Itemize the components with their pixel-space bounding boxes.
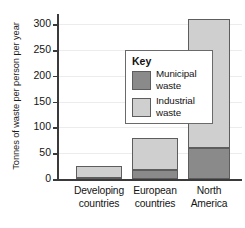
- legend-label: Municipalwaste: [156, 68, 196, 92]
- bar-segment-municipal: [188, 148, 230, 179]
- legend-title: Key: [132, 55, 151, 67]
- x-axis-label-line2: America: [169, 197, 245, 210]
- legend-label-line2: waste: [156, 80, 196, 92]
- legend-label: Industrialwaste: [156, 95, 195, 119]
- y-axis-tick-label: 0: [21, 172, 51, 184]
- x-axis-line: [57, 179, 242, 181]
- legend-swatch: [132, 71, 151, 90]
- plot-area: 050100150200250300 DevelopingcountriesEu…: [57, 14, 242, 181]
- y-axis-tick-label: 150: [21, 95, 51, 107]
- legend-label-line2: waste: [156, 107, 195, 119]
- legend-box: Key MunicipalwasteIndustrialwaste: [125, 50, 213, 124]
- legend-swatch: [132, 98, 151, 117]
- y-axis-tick-label: 300: [21, 17, 51, 29]
- y-axis-tick-label: 250: [21, 43, 51, 55]
- y-axis-tick-label: 100: [21, 120, 51, 132]
- legend-entry: Industrialwaste: [132, 97, 212, 123]
- x-axis-label: NorthAmerica: [169, 184, 245, 210]
- y-axis-line: [57, 14, 59, 181]
- y-axis-tick-label: 200: [21, 69, 51, 81]
- bar-segment-municipal: [132, 170, 178, 179]
- bar-developing-countries: [76, 166, 122, 179]
- bar-european-countries: [132, 138, 178, 179]
- legend-entry: Municipalwaste: [132, 70, 212, 96]
- bar-chart: Tonnes of waste per person per year 0501…: [0, 0, 245, 228]
- legend-label-line1: Municipal: [156, 68, 196, 79]
- y-axis-tick-label: 50: [21, 146, 51, 158]
- x-axis-label-line1: North: [197, 185, 221, 196]
- bar-segment-industrial: [76, 166, 122, 178]
- bar-segment-industrial: [132, 138, 178, 170]
- legend-label-line1: Industrial: [156, 95, 195, 106]
